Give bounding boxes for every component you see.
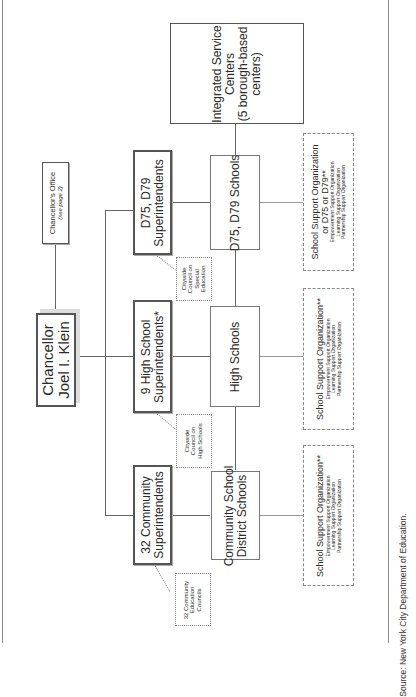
high-schools-label: High Schools [229, 321, 242, 392]
community-district-schools-box: Community School District Schools [211, 471, 260, 560]
d75-supt-line1: D75, D79 [140, 159, 153, 246]
d75-d79-superintendents-box: D75, D79 Superintendents [133, 150, 172, 255]
council-cec-line2: Education [190, 580, 196, 619]
council-hs-line2: Council on [191, 423, 197, 458]
isc-line3: (5 borough-based [237, 25, 250, 122]
chancellor-name: Joel I. Klein [56, 321, 72, 399]
council-sped-line4: Education [200, 265, 206, 293]
hs-supt-line2: Superintendents* [153, 310, 166, 402]
community-education-councils-box: 32 Community Education Councils [175, 573, 211, 626]
sso-hs-box: School Support Organization** Empowermen… [303, 288, 354, 430]
source-note: Source: New York City Department of Educ… [398, 513, 408, 696]
chancellor-title: Chancellor [40, 321, 56, 399]
integrated-service-centers-box: Integrated Service Centers (5 borough-ba… [170, 23, 304, 124]
high-schools-box: High Schools [210, 306, 260, 407]
connector [172, 515, 210, 516]
isc-line1: Integrated Service [211, 25, 224, 122]
connector [105, 515, 133, 516]
connector [260, 515, 303, 516]
cs-supt-line2: Superintendents [153, 471, 166, 558]
sso-csd-box: School Support Organization** Empowermen… [303, 445, 354, 586]
council-cec-line3: Councils [196, 580, 202, 619]
csd-schools-line2: District Schools [236, 465, 249, 566]
community-superintendents-box: 32 Community Superintendents [133, 465, 172, 565]
isc-line2: Centers [224, 25, 237, 122]
connector [260, 202, 303, 203]
high-school-superintendents-box: 9 High School Superintendents* [133, 300, 172, 413]
d75-schools-label: D75, D79 Schools [229, 154, 242, 251]
sso-d75-title1: School Support Organization [311, 144, 321, 259]
sso-hs-item: Partnership Support Organization [336, 298, 341, 420]
connector [105, 210, 106, 516]
connector [172, 356, 210, 357]
chancellors-office-note: (see page 2) [56, 172, 62, 235]
d75-d79-schools-box: D75, D79 Schools [210, 155, 260, 250]
d75-supt-line2: Superintendents [153, 159, 166, 246]
council-hs-line3: High Schools [197, 423, 203, 458]
chancellors-office-label: Chancellor's Office [48, 172, 56, 235]
sso-hs-title: School Support Organization** [316, 298, 326, 420]
sso-d75-box: School Support Organization or D75 or D7… [303, 133, 354, 271]
cs-supt-line1: 32 Community [140, 471, 153, 558]
isc-line4: centers) [250, 25, 263, 122]
sso-csd-item: Partnership Support Organization [336, 454, 341, 576]
csd-schools-line1: Community School [223, 465, 236, 566]
connector [55, 244, 56, 313]
sso-d75-item: Partnership Support Organization [341, 144, 346, 259]
connector [105, 210, 133, 211]
chancellor-box: Chancellor Joel I. Klein [36, 313, 76, 407]
council-special-education-box: Citywide Council on Special Education [176, 257, 212, 301]
council-sped-line2: Council on [188, 265, 194, 293]
chancellors-office-box: Chancellor's Office (see page 2) [42, 162, 69, 244]
council-high-schools-box: Citywide Council on High Schools [176, 414, 212, 468]
connector [75, 356, 133, 357]
connector [260, 356, 303, 357]
hs-supt-line1: 9 High School [140, 310, 153, 402]
sso-csd-title: School Support Organization** [316, 454, 326, 576]
connector [172, 202, 210, 203]
